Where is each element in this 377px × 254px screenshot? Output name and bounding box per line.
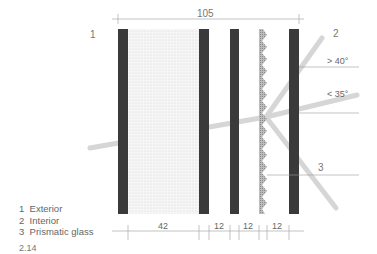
legend-item-prismatic: 3 Prismatic glass — [19, 226, 93, 238]
figure-number: 2.14 — [19, 243, 37, 253]
pane-5 — [289, 29, 299, 214]
angle-upper-label: > 40° — [327, 56, 348, 66]
dim-12-a: 12 — [214, 221, 224, 231]
redirected-beam — [266, 117, 336, 208]
legend-item-exterior: 1 Exterior — [19, 203, 93, 215]
dim-12-c: 12 — [272, 221, 282, 231]
interior-marker: 2 — [333, 28, 339, 39]
exterior-marker: 1 — [90, 29, 96, 40]
cavity-fill — [128, 29, 199, 214]
legend-item-interior: 2 Interior — [19, 215, 93, 227]
legend: 1 Exterior 2 Interior 3 Prismatic glass — [19, 203, 93, 238]
overall-dimension: 105 — [197, 8, 214, 19]
pane-2 — [199, 29, 209, 214]
pane-1 — [118, 29, 128, 214]
pane-3 — [230, 29, 239, 214]
dim-42: 42 — [158, 221, 168, 231]
prismatic-glass — [259, 29, 267, 214]
prism-marker: 3 — [318, 162, 324, 173]
dim-12-b: 12 — [243, 221, 253, 231]
angle-lower-label: < 35° — [327, 89, 348, 99]
